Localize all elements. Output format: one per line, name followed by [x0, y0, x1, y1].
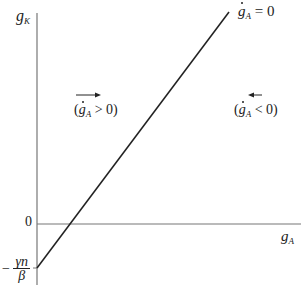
intercept-sign: − — [2, 261, 10, 276]
intercept-numerator: γn — [13, 255, 30, 269]
y-axis-label-sub: K — [24, 16, 30, 26]
x-axis-label: gA — [281, 228, 294, 245]
line-label-eq: = 0 — [251, 3, 274, 19]
x-axis-label-sub: A — [289, 236, 295, 246]
diagram-canvas — [0, 0, 302, 290]
right-region-var: g — [239, 102, 246, 118]
left-region-label: (gA > 0) — [74, 102, 118, 118]
intercept-fraction: γn β — [13, 255, 30, 282]
intercept-denominator: β — [13, 269, 30, 282]
line-label: gA = 0 — [238, 3, 274, 20]
left-region-var: g — [79, 102, 86, 118]
right-arrow-icon — [76, 93, 101, 98]
y-axis-label: gK — [16, 7, 30, 25]
gA-dot-zero-line — [37, 12, 229, 268]
x-axis-label-main: g — [281, 228, 289, 244]
right-region-sub: A — [246, 109, 252, 119]
intercept-label: − γn β — [2, 255, 30, 282]
left-region-rel: > 0) — [91, 102, 118, 117]
origin-label: 0 — [25, 214, 32, 230]
y-axis-label-main: g — [16, 7, 24, 24]
right-region-label: (gA < 0) — [234, 102, 278, 118]
left-region-sub: A — [86, 109, 92, 119]
line-label-var: g — [238, 3, 246, 20]
left-arrow-icon — [248, 93, 262, 98]
line-label-sub: A — [246, 11, 252, 21]
right-region-rel: < 0) — [251, 102, 278, 117]
